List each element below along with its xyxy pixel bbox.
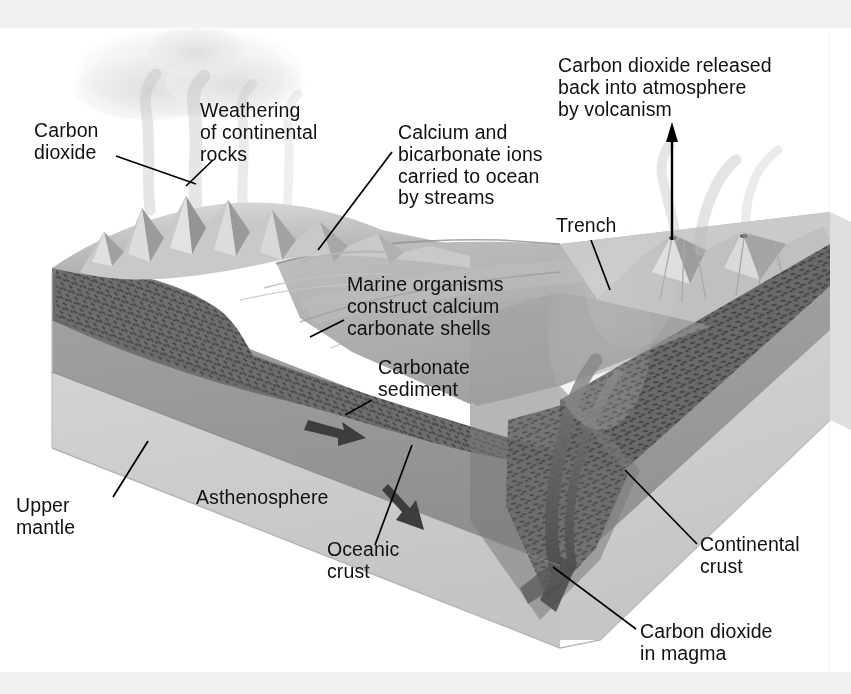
- leader-carbon-dioxide: [116, 156, 196, 184]
- label-marine-organisms: Marine organisms construct calcium carbo…: [347, 274, 504, 339]
- label-oceanic-crust: Oceanic crust: [327, 539, 399, 583]
- label-co2-released-volcanism: Carbon dioxide released back into atmosp…: [558, 55, 772, 120]
- label-calcium-bicarbonate: Calcium and bicarbonate ions carried to …: [398, 122, 543, 209]
- label-weathering: Weathering of continental rocks: [200, 100, 317, 165]
- label-upper-mantle: Upper mantle: [16, 495, 75, 539]
- co2-haze-column: [548, 230, 652, 430]
- label-carbonate-sediment: Carbonate sediment: [378, 357, 470, 401]
- figure-canvas: Carbon dioxide Weathering of continental…: [0, 0, 851, 694]
- label-carbon-dioxide: Carbon dioxide: [34, 120, 99, 164]
- label-co2-in-magma: Carbon dioxide in magma: [640, 621, 773, 665]
- label-asthenosphere: Asthenosphere: [196, 487, 328, 509]
- label-continental-crust: Continental crust: [700, 534, 800, 578]
- label-trench: Trench: [556, 215, 617, 237]
